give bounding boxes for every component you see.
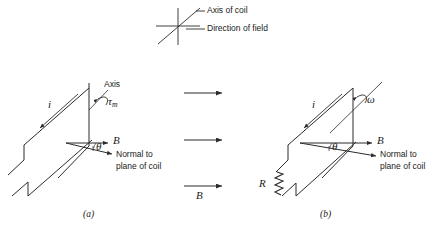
panel-a-torque-subscript: m	[112, 100, 118, 109]
panel-a-B-label: B	[113, 135, 120, 146]
panel-b-theta-label: θ	[332, 141, 337, 152]
panel-b-normal-label-line2: plane of coil	[380, 162, 425, 171]
panel-b-coil	[276, 88, 356, 196]
panel-b-B-label: B	[377, 135, 384, 146]
resistor-symbol	[275, 172, 283, 195]
panel-a-axis-leader	[89, 90, 108, 110]
panel-b-plane-lines	[322, 146, 353, 178]
figure-svg	[0, 0, 430, 231]
field-arrows-B-label: B	[196, 190, 203, 201]
legend-symbol	[156, 8, 200, 45]
panel-a-torque-arc	[98, 97, 108, 105]
panel-a-plane-lines	[58, 146, 89, 178]
legend-direction-of-field-label: Direction of field	[207, 24, 268, 33]
panel-b-current-arrow	[304, 94, 342, 128]
field-arrows	[184, 93, 222, 186]
panel-b-normal-vector	[300, 143, 376, 156]
panel-b-axis-line	[330, 82, 382, 133]
panel-a-current-arrow	[40, 94, 78, 128]
panel-b-current-label: i	[312, 99, 315, 110]
panel-a-theta-label: θ	[96, 141, 101, 152]
panel-b-normal-label-line1: Normal to	[380, 150, 417, 159]
panel-a-caption: (a)	[83, 210, 94, 220]
figure-container: Axis of coil Direction of field B i Axis…	[0, 0, 430, 231]
panel-b-caption: (b)	[320, 210, 331, 220]
panel-a-axis-label: Axis	[104, 80, 120, 89]
panel-a-current-label: i	[48, 99, 51, 110]
legend-axis-of-coil-label: Axis of coil	[207, 6, 248, 15]
panel-b-resistor-label: R	[259, 178, 266, 189]
panel-a-torque-label: τm	[108, 96, 118, 109]
panel-a-normal-label-line2: plane of coil	[116, 162, 161, 171]
panel-a-normal-label-line1: Normal to	[116, 150, 153, 159]
panel-b-omega-label: ω	[367, 94, 375, 105]
